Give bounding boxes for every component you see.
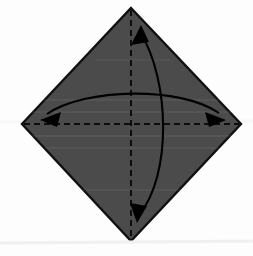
origami-figure-svg: [0, 0, 253, 256]
origami-diagram: [0, 0, 253, 256]
scan-artifact-line-lower: [0, 241, 253, 243]
